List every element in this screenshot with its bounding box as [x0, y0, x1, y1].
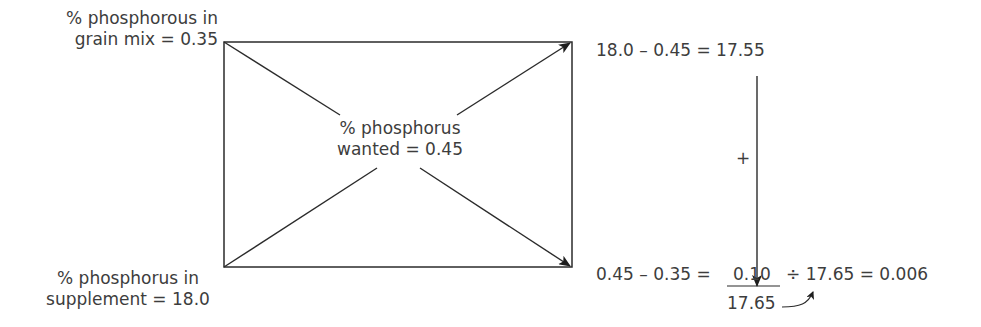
wanted-label: % phosphorus wanted = 0.45	[300, 118, 500, 160]
fraction-denominator: 17.65	[727, 293, 776, 314]
top-equation: 18.0 – 0.45 = 17.55	[596, 40, 765, 61]
plus-sign: +	[736, 148, 750, 169]
supplement-line2: supplement = 18.0	[28, 289, 228, 310]
supplement-label: % phosphorus in supplement = 18.0	[28, 268, 228, 310]
grain-mix-line1: % phosphorous in	[18, 8, 218, 29]
grain-mix-line2: grain mix = 0.35	[18, 29, 218, 50]
wanted-line1: % phosphorus	[300, 118, 500, 139]
diag-bottom-left	[224, 168, 377, 267]
bottom-equation-left: 0.45 – 0.35 =	[596, 264, 711, 285]
diag-top-right-arrow	[457, 43, 570, 115]
diag-bottom-right-arrow	[420, 168, 570, 266]
supplement-line1: % phosphorus in	[28, 268, 228, 289]
curved-arrow	[782, 292, 813, 307]
diag-top-left	[224, 42, 340, 115]
fraction-numerator: 0.10	[733, 264, 771, 285]
grain-mix-label: % phosphorous in grain mix = 0.35	[18, 8, 218, 50]
wanted-line2: wanted = 0.45	[300, 139, 500, 160]
bottom-equation-right: ÷ 17.65 = 0.006	[786, 264, 928, 285]
